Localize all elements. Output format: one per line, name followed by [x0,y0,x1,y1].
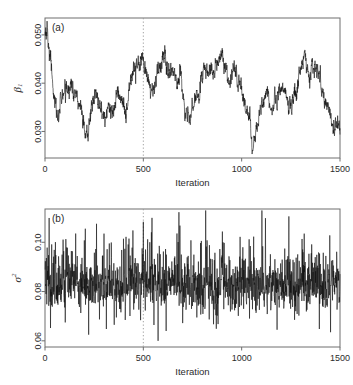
x-tick-label: 1500 [330,353,350,363]
mcmc-trace-figure: 0500100015000.0300.0400.050Iterationβ1(a… [0,0,353,385]
x-tick-label: 1000 [232,164,252,174]
x-tick-label: 0 [42,164,47,174]
x-tick-label: 500 [136,353,151,363]
panel-b-plot: 0500100015000.060.080.10Iterationσ2(b) [0,195,353,385]
panel-tag: (b) [52,213,64,224]
y-axis-title: σ2 [10,273,24,282]
panel-a-plot: 0500100015000.0300.0400.050Iterationβ1(a… [0,0,353,195]
y-tick-label: 0.030 [34,120,44,143]
y-tick-label: 0.06 [34,332,44,350]
y-axis-title: β1 [11,84,24,94]
x-tick-label: 500 [136,164,151,174]
x-axis-title: Iteration [175,177,209,188]
trace-line-beta1 [45,21,340,154]
x-tick-label: 1000 [232,353,252,363]
panel-tag: (a) [52,22,64,33]
y-tick-label: 0.050 [34,24,44,47]
panel-b: 0500100015000.060.080.10Iterationσ2(b) [0,195,353,385]
trace-line-sigma2 [45,210,340,340]
plot-frame [45,18,340,158]
y-tick-label: 0.040 [34,72,44,95]
y-tick-label: 0.10 [34,234,44,252]
panel-a: 0500100015000.0300.0400.050Iterationβ1(a… [0,0,353,195]
x-tick-label: 0 [42,353,47,363]
x-tick-label: 1500 [330,164,350,174]
y-tick-label: 0.08 [34,283,44,301]
x-axis-title: Iteration [175,366,209,377]
